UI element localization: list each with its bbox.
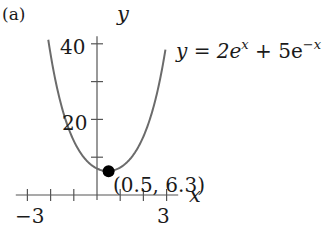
panel-label: (a) bbox=[2, 6, 25, 23]
equation-mid: + 5e bbox=[249, 39, 303, 63]
equation-lhs: y = 2e bbox=[176, 39, 241, 63]
function-curve bbox=[48, 40, 165, 171]
y-tick-label-20: 20 bbox=[62, 113, 87, 133]
point-label: (0.5, 6.3) bbox=[113, 175, 205, 195]
equation-exp2: −x bbox=[303, 37, 321, 52]
x-tick-label-neg3: −3 bbox=[15, 206, 44, 226]
y-tick-label-40: 40 bbox=[60, 37, 85, 57]
equation-exp1: x bbox=[241, 37, 248, 52]
equation-label: y = 2ex + 5e−x bbox=[176, 38, 321, 61]
y-axis-label: y bbox=[117, 4, 129, 25]
x-tick-label-3: 3 bbox=[157, 206, 170, 226]
